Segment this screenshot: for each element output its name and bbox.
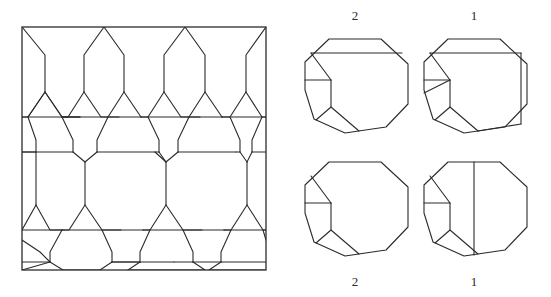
tiling-patch bbox=[22, 27, 266, 270]
figure-root: 2 1 2 bbox=[0, 0, 551, 297]
chord-top-right-4 bbox=[450, 80, 478, 131]
chord-bottom-left-4 bbox=[316, 230, 331, 243]
figure-canvas: 2 1 2 bbox=[0, 0, 551, 297]
label-top-right: 1 bbox=[471, 8, 478, 23]
decagon-outline-bottom-left bbox=[305, 162, 408, 256]
chord-top-right-8 bbox=[478, 124, 521, 131]
chord-top-right-2 bbox=[430, 53, 450, 80]
polygon-top-right bbox=[424, 39, 527, 133]
chord-bottom-left-1 bbox=[311, 176, 331, 203]
chord-bottom-right-1 bbox=[430, 176, 450, 203]
chord-top-left-4 bbox=[331, 80, 359, 131]
chord-top-left-5 bbox=[316, 107, 331, 120]
chord-top-right-5 bbox=[435, 107, 450, 120]
chord-bottom-right-4 bbox=[435, 230, 450, 243]
chord-top-right-6 bbox=[424, 80, 450, 93]
label-bottom-right: 1 bbox=[471, 274, 478, 289]
chord-top-left-2 bbox=[311, 53, 331, 80]
tiling-edges bbox=[22, 27, 266, 270]
label-top-left: 2 bbox=[352, 8, 359, 23]
polygon-bottom-left bbox=[305, 162, 408, 256]
label-bottom-left: 2 bbox=[352, 274, 359, 289]
polygon-bottom-right bbox=[424, 162, 527, 256]
chord-bottom-left-3 bbox=[331, 203, 359, 254]
polygon-top-left bbox=[305, 39, 408, 133]
decagon-outline-bottom-right bbox=[424, 162, 527, 256]
